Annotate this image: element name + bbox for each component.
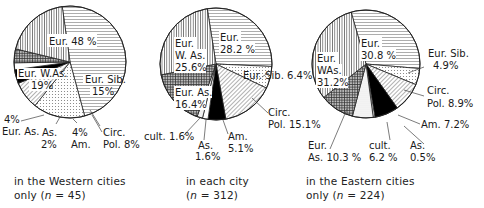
label-m-wa-3: 25.6% — [175, 62, 207, 73]
caption-eastern: in the Eastern cities only (n = 224) — [306, 174, 415, 202]
label-e-as-2: 0.5% — [410, 152, 435, 163]
label-e-wa-2: WAs. — [317, 65, 342, 76]
label-w-as-2: 2% — [41, 139, 57, 150]
caption-each-city: in each city (n = 312) — [186, 174, 249, 202]
caption-western-line2: only (n = 45) — [14, 188, 126, 202]
label-w-as-1: As. — [42, 127, 57, 138]
label-m-as-1: As. — [198, 140, 213, 151]
caption-eastern-line2: only (n = 224) — [306, 188, 415, 202]
label-w-cp-2: Pol. 8% — [103, 139, 140, 150]
label-w-wa-1: Eur. W.As. — [18, 68, 67, 79]
label-m-sib: Eur. Sib. 6.4% — [243, 70, 312, 81]
label-m-am-2: 5.1% — [228, 143, 253, 154]
pie-western-cities — [14, 6, 126, 118]
label-e-as-1: As. — [410, 140, 425, 151]
label-w-ea-1: 4% — [4, 114, 20, 125]
label-m-eur-2: 28.2 % — [220, 44, 255, 55]
label-w-eur: Eur. 48 % — [49, 36, 97, 47]
label-e-cp-2: Pol. 8.9% — [427, 98, 473, 109]
label-m-cp-1: Circ. — [268, 107, 290, 118]
label-e-eur-1: Eur. — [361, 38, 380, 49]
label-e-cp-1: Circ. — [427, 85, 449, 96]
label-m-as-2: 1.6% — [195, 151, 220, 162]
label-e-wa-1: Eur. — [317, 53, 336, 64]
label-m-wa-1: Eur. — [175, 38, 194, 49]
label-e-eur-2: 30.8 % — [361, 50, 396, 61]
caption-eastern-line1: in the Eastern cities — [306, 174, 415, 188]
label-m-cult: cult. 1.6% — [144, 131, 194, 142]
label-w-wa-2: 19% — [31, 80, 53, 91]
label-m-ea-2: 16.4% — [175, 99, 207, 110]
label-w-cp-1: Circ. — [103, 127, 125, 138]
label-m-cp-2: Pol. 15.1% — [268, 119, 321, 130]
caption-each-line2: (n = 312) — [186, 188, 249, 202]
label-e-sib-1: Eur. Sib. — [428, 48, 469, 59]
label-w-ea-2: Eur. As. — [2, 126, 39, 137]
label-e-cult-1: cult. — [369, 140, 391, 151]
caption-western-line1: in the Western cities — [14, 174, 126, 188]
label-w-am-1: 4% — [72, 127, 88, 138]
label-w-am-2: Am. — [71, 139, 91, 150]
label-e-wa-3: 31.2% — [317, 77, 349, 88]
caption-western: in the Western cities only (n = 45) — [14, 174, 126, 202]
label-m-wa-2: W. As. — [175, 50, 205, 61]
caption-each-line1: in each city — [186, 174, 249, 188]
label-m-am-1: Am. — [228, 131, 248, 142]
label-e-cult-2: 6.2 % — [369, 152, 398, 163]
label-m-ea-1: Eur. As. — [175, 87, 212, 98]
label-e-sib-2: 4.9% — [433, 60, 458, 71]
label-w-sib-1: Eur. Sib. — [85, 74, 126, 85]
label-m-eur-1: Eur. — [220, 32, 239, 43]
label-e-ea-2: As. 10.3 % — [308, 152, 361, 163]
label-e-am: Am. 7.2% — [421, 119, 469, 130]
label-w-sib-2: 15% — [92, 86, 114, 97]
label-e-ea-1: Eur. — [308, 140, 327, 151]
